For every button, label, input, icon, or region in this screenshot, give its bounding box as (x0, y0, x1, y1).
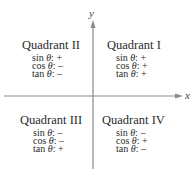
quadrant-title: Quadrant IV (102, 113, 165, 128)
sign-value: + (141, 68, 147, 79)
sign-list: sin θ: + cos θ: – tan θ: – (32, 54, 63, 79)
tan-row: tan θ: – (32, 70, 63, 78)
sign-list: sin θ: – cos θ: + tan θ: – (116, 129, 148, 154)
tan-row: tan θ: + (33, 145, 64, 153)
sign-list: sin θ: + cos θ: + tan θ: + (116, 54, 148, 79)
y-axis-label: y (89, 7, 94, 19)
quadrant-title: Quadrant III (20, 113, 82, 128)
tan-row: tan θ: + (116, 70, 148, 78)
coordinate-axes (0, 0, 195, 175)
y-axis-arrow-icon (91, 20, 96, 28)
x-axis-label: x (185, 89, 190, 101)
quadrant-title: Quadrant I (107, 38, 161, 53)
sign-value: – (141, 143, 146, 154)
tan-row: tan θ: – (116, 145, 148, 153)
sign-list: sin θ: – cos θ: – tan θ: + (33, 129, 64, 154)
sign-value: + (58, 143, 64, 154)
sign-value: – (57, 68, 62, 79)
quadrant-title: Quadrant II (22, 38, 80, 53)
x-axis-arrow-icon (175, 94, 183, 99)
